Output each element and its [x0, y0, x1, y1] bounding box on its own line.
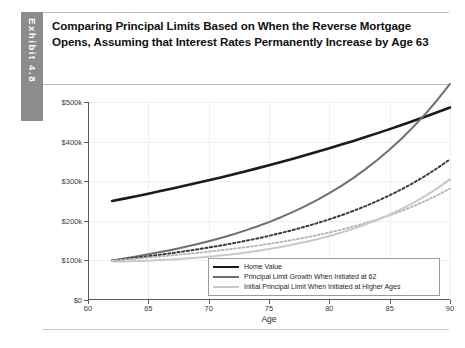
chart-legend: Home ValuePrincipal Limit Growth When In…	[208, 258, 440, 296]
legend-color-swatch	[213, 276, 239, 278]
legend-item: Home Value	[213, 262, 435, 272]
chart-container: $0$100k$200k$300k$400k$500k 606570758085…	[52, 92, 452, 342]
legend-item: Principal Limit Growth When Initiated at…	[213, 272, 435, 282]
y-axis-tick-label: $0	[74, 296, 82, 305]
header-rule-bottom	[43, 84, 449, 85]
legend-item-label: Home Value	[244, 262, 282, 272]
y-axis-tick-label: $400k	[62, 137, 82, 146]
legend-color-swatch	[213, 266, 239, 268]
legend-item-label: Principal Limit Growth When Initiated at…	[244, 272, 376, 282]
exhibit-title: Comparing Principal Limits Based on When…	[52, 18, 447, 49]
x-axis-tick-label: 70	[204, 304, 212, 313]
exhibit-page: Exhibit 4.8 Comparing Principal Limits B…	[0, 0, 465, 348]
legend-color-swatch	[213, 286, 239, 288]
exhibit-number-tab: Exhibit 4.8	[21, 12, 43, 121]
footer-rule	[43, 329, 449, 330]
y-axis-tick-label: $500k	[62, 98, 82, 107]
y-axis-tick-label: $200k	[62, 216, 82, 225]
x-axis-tick-label: 60	[84, 304, 92, 313]
legend-item-label: Initial Principal Limit When Initiated a…	[244, 282, 400, 292]
y-axis-tick-label: $100k	[62, 256, 82, 265]
x-axis-tick-label: 80	[325, 304, 333, 313]
gridline-vertical	[450, 102, 451, 300]
x-axis-tick-label: 85	[385, 304, 393, 313]
legend-item: Initial Principal Limit When Initiated a…	[213, 282, 435, 292]
y-axis-tick-label: $300k	[62, 177, 82, 186]
header-rule-top	[43, 12, 449, 13]
x-axis-title: Age	[88, 314, 450, 324]
chart-line	[112, 189, 450, 261]
chart-line	[112, 108, 450, 201]
x-axis-tick-label: 65	[144, 304, 152, 313]
x-axis-tick-label: 90	[446, 304, 454, 313]
x-axis-tick-label: 75	[265, 304, 273, 313]
exhibit-number-label: Exhibit 4.8	[21, 18, 43, 83]
